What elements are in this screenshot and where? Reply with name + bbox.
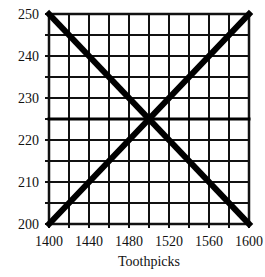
y-tick-label: 210 bbox=[18, 175, 39, 190]
y-tick-label: 200 bbox=[18, 217, 39, 232]
chart: 200210220230240250 140014401480152015601… bbox=[0, 0, 265, 277]
y-axis-ticks: 200210220230240250 bbox=[18, 7, 39, 232]
x-tick-label: 1600 bbox=[235, 234, 263, 249]
x-tick-label: 1520 bbox=[155, 234, 183, 249]
x-tick-label: 1440 bbox=[75, 234, 103, 249]
x-tick-label: 1480 bbox=[115, 234, 143, 249]
y-tick-label: 250 bbox=[18, 7, 39, 22]
y-tick-label: 220 bbox=[18, 133, 39, 148]
y-tick-label: 240 bbox=[18, 49, 39, 64]
x-axis-ticks: 140014401480152015601600 bbox=[35, 234, 263, 249]
x-tick-label: 1400 bbox=[35, 234, 63, 249]
x-tick-label: 1560 bbox=[195, 234, 223, 249]
y-tick-label: 230 bbox=[18, 91, 39, 106]
x-axis-label: Toothpicks bbox=[118, 254, 180, 269]
